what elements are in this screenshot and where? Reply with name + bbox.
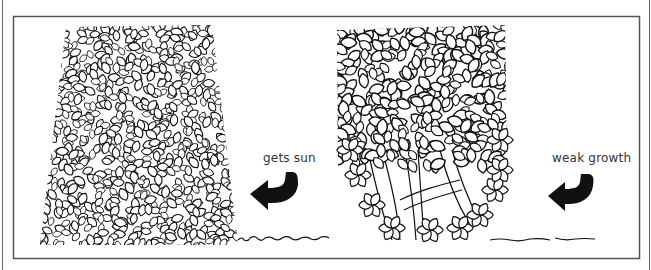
curved-arrow-left-icon [250,172,298,210]
weak-growth-label: weak growth [552,151,631,165]
gets-sun-label: gets sun [263,151,316,165]
left-hedge [23,14,253,262]
curved-arrow-left-icon [548,174,593,211]
hedge-illustration: gets sun weak growth [0,0,651,270]
